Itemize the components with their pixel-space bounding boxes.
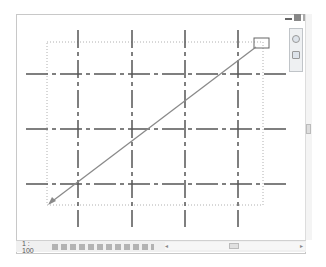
- view-scale[interactable]: 1 : 100: [22, 240, 42, 254]
- navigation-bar: [289, 28, 303, 72]
- restore-icon[interactable]: [294, 14, 301, 21]
- crop-view-icon[interactable]: [97, 244, 103, 250]
- drawing-canvas[interactable]: [0, 0, 326, 267]
- more-icon[interactable]: [151, 244, 154, 250]
- horizontal-scrollbar[interactable]: ◂ ▸: [165, 242, 305, 250]
- horizontal-scroll-thumb[interactable]: [229, 243, 239, 249]
- temporary-view-properties-icon[interactable]: [133, 244, 139, 250]
- steering-wheel-icon[interactable]: [292, 35, 300, 43]
- drag-arrow: [50, 47, 256, 203]
- detail-level-icon[interactable]: [52, 244, 58, 250]
- shadows-icon[interactable]: [79, 244, 85, 250]
- visual-style-icon[interactable]: [61, 244, 67, 250]
- temporary-hide-icon[interactable]: [115, 244, 121, 250]
- show-crop-icon[interactable]: [106, 244, 112, 250]
- vertical-scroll-thumb[interactable]: [306, 124, 311, 134]
- scroll-right-icon[interactable]: ▸: [300, 242, 303, 250]
- scroll-left-icon[interactable]: ◂: [165, 242, 168, 250]
- vertical-scrollbar[interactable]: [305, 14, 312, 240]
- render-icon[interactable]: [88, 244, 94, 250]
- selection-box[interactable]: [254, 38, 269, 48]
- analytical-model-icon[interactable]: [142, 244, 148, 250]
- sun-path-icon[interactable]: [70, 244, 76, 250]
- zoom-icon[interactable]: [292, 51, 300, 59]
- arrow-head-icon: [48, 197, 56, 205]
- minimize-icon[interactable]: [285, 15, 292, 20]
- reveal-hidden-icon[interactable]: [124, 244, 130, 250]
